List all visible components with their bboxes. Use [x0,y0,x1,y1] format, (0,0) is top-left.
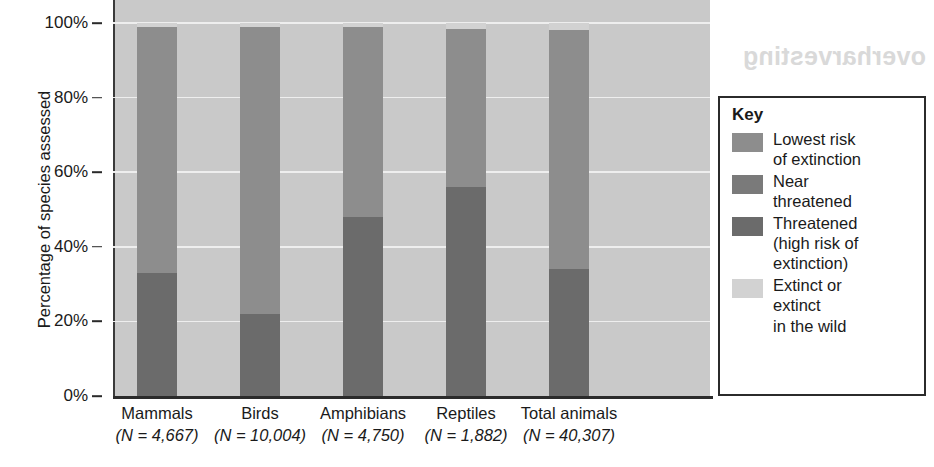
legend-label-extinct: Extinct or extinct in the wild [773,275,846,336]
bar-segment [137,23,177,27]
legend-item-near-threatened[interactable]: Near threatened [732,171,914,212]
y-axis-ticks: 0%20%40%60%80%100% [22,0,102,467]
legend-swatch-lowest-risk [732,133,763,152]
bar-amphibians[interactable] [343,0,383,396]
x-axis-line [113,396,713,399]
legend-label-near-threatened: Near threatened [773,171,852,212]
y-tick-mark [92,97,102,99]
x-tick-category: Amphibians [320,402,406,424]
bar-segment [446,23,486,29]
y-tick-mark [92,246,102,248]
x-tick-label: Amphibians(N = 4,750) [320,402,406,446]
bar-segment [446,187,486,396]
bar-segment [343,23,383,27]
gridline [113,97,710,99]
y-tick-mark [92,171,102,173]
y-tick-label: 100% [18,13,88,33]
bar-reptiles[interactable] [446,0,486,396]
x-tick-label: Total animals(N = 40,307) [521,402,617,446]
plot-area [113,0,710,399]
y-tick-label: 0% [18,386,88,406]
x-tick-category: Birds [214,402,306,424]
x-tick-sample-size: (N = 1,882) [425,424,508,446]
x-axis-labels: Mammals(N = 4,667)Birds(N = 10,004)Amphi… [113,402,713,464]
x-tick-category: Reptiles [425,402,508,424]
gridline [113,246,710,248]
bar-segment [240,314,280,396]
bar-segment [240,23,280,27]
bar-mammals[interactable] [137,0,177,396]
bar-segment [137,27,177,273]
gridline [113,321,710,323]
y-tick-label: 20% [18,311,88,331]
x-tick-label: Birds(N = 10,004) [214,402,306,446]
y-tick-mark [92,22,102,24]
y-tick-label: 40% [18,237,88,257]
legend-item-lowest-risk[interactable]: Lowest risk of extinction [732,129,914,170]
page-bleedthrough-text: overharvesting [706,42,926,76]
bar-total-animals[interactable] [549,0,589,396]
legend-item-threatened[interactable]: Threatened (high risk of extinction) [732,213,914,274]
bar-segment [137,273,177,396]
bar-segment [240,27,280,314]
legend-swatch-extinct [732,279,763,298]
bar-segment [549,269,589,396]
gridline [113,22,710,24]
bar-segment [343,27,383,217]
y-tick-label: 60% [18,162,88,182]
x-tick-label: Reptiles(N = 1,882) [425,402,508,446]
bar-segment [446,29,486,188]
y-tick-mark [92,321,102,323]
x-tick-sample-size: (N = 4,667) [116,424,199,446]
bar-segment [549,23,589,30]
legend-swatch-threatened [732,217,763,236]
gridline [113,171,710,173]
x-tick-label: Mammals(N = 4,667) [116,402,199,446]
legend-swatch-near-threatened [732,175,763,194]
x-tick-category: Mammals [116,402,199,424]
x-tick-category: Total animals [521,402,617,424]
legend-items: Lowest risk of extinctionNear threatened… [732,129,914,337]
legend-label-threatened: Threatened (high risk of extinction) [773,213,858,274]
legend-label-lowest-risk: Lowest risk of extinction [773,129,861,170]
y-tick-label: 80% [18,88,88,108]
legend-item-extinct[interactable]: Extinct or extinct in the wild [732,275,914,336]
chart-figure: overharvesting Percentage of species ass… [0,0,934,467]
bar-segment [549,30,589,269]
y-tick-mark [92,395,102,397]
x-tick-sample-size: (N = 40,307) [521,424,617,446]
x-tick-sample-size: (N = 10,004) [214,424,306,446]
bar-birds[interactable] [240,0,280,396]
legend-box: Key Lowest risk of extinctionNear threat… [718,96,926,396]
legend-title: Key [732,106,914,125]
y-axis-line [113,0,115,399]
bar-segment [343,217,383,396]
x-tick-sample-size: (N = 4,750) [320,424,406,446]
